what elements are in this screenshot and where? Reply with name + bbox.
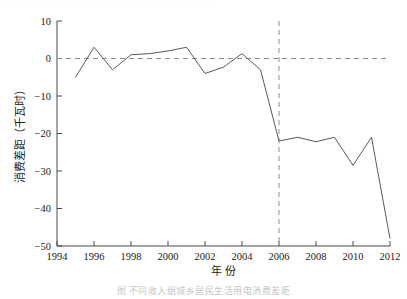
data-series-line bbox=[76, 47, 391, 238]
x-tick-label: 2008 bbox=[306, 251, 327, 262]
y-tick-label: −40 bbox=[35, 203, 51, 214]
y-tick-label: −50 bbox=[35, 241, 51, 252]
x-tick-label: 2010 bbox=[343, 251, 364, 262]
y-tick-label: −10 bbox=[35, 91, 51, 102]
y-axis-title: 消费差距（千瓦时） bbox=[13, 84, 27, 183]
y-tick-label: 0 bbox=[46, 53, 51, 64]
y-tick-label: 10 bbox=[41, 16, 52, 27]
x-tick-label: 1998 bbox=[121, 251, 142, 262]
x-axis-title: 年 份 bbox=[211, 264, 237, 278]
y-tick-label: −30 bbox=[35, 166, 51, 177]
figure-caption: 图 不同收入组城乡居民生活用电消费差距 bbox=[0, 284, 407, 297]
x-tick-label: 2004 bbox=[232, 251, 254, 262]
x-tick-label: 2002 bbox=[195, 251, 216, 262]
x-tick-label: 1994 bbox=[47, 251, 69, 262]
x-tick-label: 2000 bbox=[158, 251, 179, 262]
y-tick-label: −20 bbox=[35, 128, 51, 139]
line-chart: 100−10−20−30−40−501994199619982000200220… bbox=[0, 0, 407, 299]
x-tick-label: 2006 bbox=[269, 251, 290, 262]
x-tick-label: 1996 bbox=[84, 251, 105, 262]
axis-spines bbox=[57, 21, 390, 246]
x-tick-label: 2012 bbox=[380, 251, 401, 262]
